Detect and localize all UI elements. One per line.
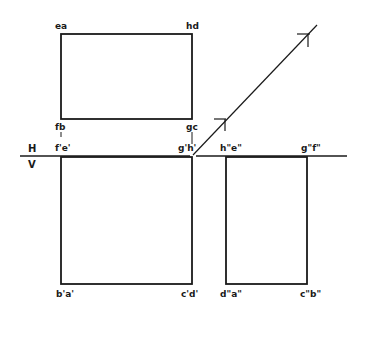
front-view-rect bbox=[61, 157, 192, 284]
label-top-right: hd bbox=[186, 21, 199, 31]
label-front-bottom-left: b'a' bbox=[56, 289, 74, 299]
projection-diagram: H V ea hd fb gc f'e' g'h' b'a' c'd' h"e"… bbox=[0, 0, 370, 340]
label-front-top-left: f'e' bbox=[55, 143, 71, 153]
label-bottom-right: gc bbox=[186, 122, 198, 132]
label-front-top-right: g'h' bbox=[178, 143, 196, 153]
label-front-bottom-right: c'd' bbox=[181, 289, 198, 299]
label-v: V bbox=[28, 159, 36, 170]
label-side-bottom-left: d"a" bbox=[220, 289, 242, 299]
miter-line bbox=[193, 25, 317, 155]
label-side-top-left: h"e" bbox=[220, 143, 242, 153]
label-side-top-right: g"f" bbox=[301, 143, 321, 153]
label-h: H bbox=[28, 143, 36, 154]
side-view-rect bbox=[226, 157, 307, 284]
label-top-left: ea bbox=[55, 21, 67, 31]
miter-tick-lower bbox=[214, 119, 226, 131]
top-view-rect bbox=[61, 34, 192, 119]
miter-tick-upper bbox=[297, 34, 310, 47]
label-bottom-left: fb bbox=[55, 122, 66, 132]
label-side-bottom-right: c"b" bbox=[300, 289, 321, 299]
